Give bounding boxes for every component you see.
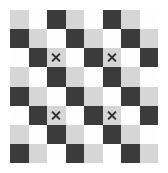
grid-cell: [103, 29, 122, 48]
grid-cell: [10, 10, 29, 29]
grid-cell: [47, 29, 66, 48]
grid-cell: [10, 87, 29, 106]
grid-cell: [140, 29, 159, 48]
grid-cell: [66, 87, 85, 106]
grid-cell: [66, 144, 85, 163]
grid-cell: [47, 87, 66, 106]
grid-cell: [140, 87, 159, 106]
grid-cell: [84, 106, 103, 125]
grid-cell: [29, 87, 48, 106]
grid-cell: [66, 106, 85, 125]
grid-cell: [140, 67, 159, 86]
grid-cell: [29, 10, 48, 29]
grid-cell: [47, 125, 66, 144]
grid-cell: [103, 87, 122, 106]
grid-cell: [103, 10, 122, 29]
grid-cell: [140, 144, 159, 163]
grid-cell: [121, 10, 140, 29]
grid-cell: [66, 29, 85, 48]
grid-cell: [47, 144, 66, 163]
grid-cell: [121, 125, 140, 144]
grid-cell: [103, 144, 122, 163]
grid-cell: [66, 125, 85, 144]
grid-cell: [47, 106, 66, 125]
grid-cell: [29, 29, 48, 48]
grid-cell: [47, 10, 66, 29]
grid-cell: [66, 48, 85, 67]
grid-cell: [66, 67, 85, 86]
grid-cell: [66, 10, 85, 29]
grid-cell: [140, 125, 159, 144]
checkerboard-grid: [10, 10, 158, 163]
grid-cell: [29, 125, 48, 144]
grid-cell: [121, 48, 140, 67]
grid-cell: [29, 67, 48, 86]
grid-cell: [10, 29, 29, 48]
checkerboard-figure: [0, 0, 168, 173]
grid-cell: [29, 144, 48, 163]
grid-cell: [10, 48, 29, 67]
grid-cell: [121, 67, 140, 86]
grid-cell: [140, 48, 159, 67]
grid-cell: [84, 67, 103, 86]
x-mark-icon: [51, 52, 62, 63]
grid-cell: [103, 67, 122, 86]
grid-cell: [103, 48, 122, 67]
grid-cell: [84, 29, 103, 48]
grid-cell: [103, 106, 122, 125]
grid-cell: [29, 48, 48, 67]
x-mark-icon: [106, 52, 117, 63]
grid-cell: [47, 48, 66, 67]
grid-cell: [121, 29, 140, 48]
grid-cell: [84, 87, 103, 106]
x-mark-icon: [106, 110, 117, 121]
grid-cell: [84, 48, 103, 67]
grid-cell: [84, 144, 103, 163]
grid-cell: [121, 87, 140, 106]
grid-cell: [10, 144, 29, 163]
grid-cell: [84, 10, 103, 29]
grid-cell: [29, 106, 48, 125]
grid-cell: [10, 125, 29, 144]
grid-cell: [47, 67, 66, 86]
x-mark-icon: [51, 110, 62, 121]
grid-cell: [121, 106, 140, 125]
grid-cell: [140, 10, 159, 29]
grid-cell: [84, 125, 103, 144]
grid-cell: [10, 67, 29, 86]
grid-cell: [10, 106, 29, 125]
grid-cell: [121, 144, 140, 163]
grid-cell: [103, 125, 122, 144]
grid-cell: [140, 106, 159, 125]
